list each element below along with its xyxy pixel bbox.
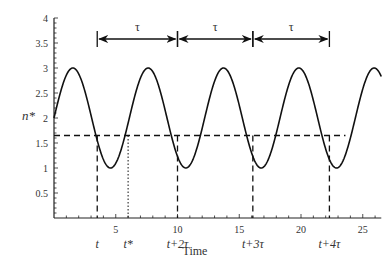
y-tick-label: 2 <box>43 113 48 124</box>
y-tick-label: 1.5 <box>36 138 49 149</box>
time-marker-label: t+4τ <box>319 237 341 251</box>
y-tick-label: 3.5 <box>36 38 49 49</box>
tau-label: τ <box>135 20 140 34</box>
x-axis-label: Time <box>183 244 208 258</box>
y-tick-label: 1 <box>43 163 48 174</box>
annotations: tt+2τt+3τt+4τt*τττ <box>54 20 345 251</box>
y-tick-label: 4 <box>43 13 48 24</box>
y-axis-label: n* <box>22 108 36 123</box>
t-star-label: t* <box>123 237 132 251</box>
x-tick-label: 15 <box>234 224 244 235</box>
chart: 0.511.522.533.54510152025 tt+2τt+3τt+4τt… <box>0 0 390 269</box>
time-marker-label: t+3τ <box>242 237 264 251</box>
y-tick-label: 2.5 <box>36 88 49 99</box>
oscillation-curve <box>54 68 381 168</box>
tau-label: τ <box>213 20 218 34</box>
tau-label: τ <box>289 20 294 34</box>
x-tick-label: 10 <box>173 224 183 235</box>
x-tick-label: 20 <box>296 224 306 235</box>
x-tick-label: 5 <box>113 224 118 235</box>
y-tick-label: 0.5 <box>36 188 49 199</box>
x-tick-label: 25 <box>358 224 368 235</box>
y-tick-label: 3 <box>43 63 48 74</box>
time-marker-label: t <box>96 237 100 251</box>
